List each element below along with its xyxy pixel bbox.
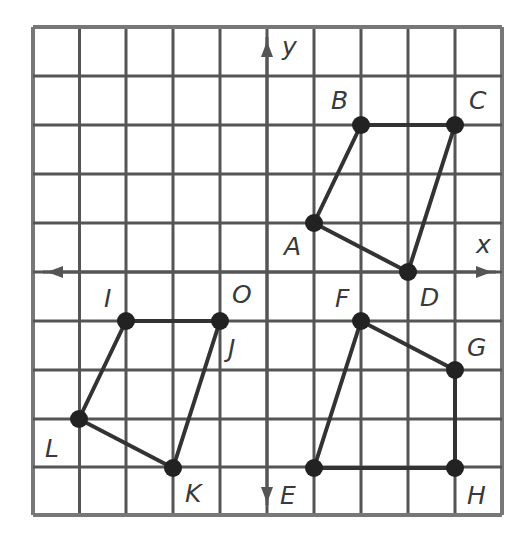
polygon-edges bbox=[314, 125, 455, 272]
vertex-point-k bbox=[164, 459, 182, 477]
vertex-point-g bbox=[446, 361, 464, 379]
x-axis-label: x bbox=[475, 230, 491, 259]
vertex-label-g: G bbox=[467, 333, 486, 362]
vertex-point-e bbox=[305, 459, 323, 477]
vertex-point-f bbox=[352, 312, 370, 330]
polygon-edges bbox=[314, 321, 455, 468]
vertex-label-a: A bbox=[282, 232, 301, 261]
vertex-label-c: C bbox=[469, 86, 487, 115]
origin-label: O bbox=[232, 280, 252, 309]
x-axis-arrow-right-icon bbox=[476, 266, 492, 278]
y-axis-arrow-up-icon bbox=[261, 41, 273, 57]
y-axis-arrow-down-icon bbox=[261, 487, 273, 503]
x-axis-arrow-left-icon bbox=[47, 266, 63, 278]
vertex-point-l bbox=[70, 410, 88, 428]
quadrilateral-ijkl: IJKL bbox=[45, 284, 235, 508]
vertex-point-a bbox=[305, 214, 323, 232]
vertex-point-d bbox=[399, 263, 417, 281]
vertex-point-h bbox=[446, 459, 464, 477]
polygon-edges bbox=[79, 321, 220, 468]
vertex-label-b: B bbox=[331, 86, 348, 115]
vertex-label-l: L bbox=[45, 434, 59, 463]
vertex-point-j bbox=[211, 312, 229, 330]
vertex-label-d: D bbox=[420, 283, 439, 312]
coordinate-grid-diagram: x y O ABCDIJKLEFGH bbox=[0, 0, 530, 540]
vertex-label-h: H bbox=[467, 481, 486, 510]
vertex-label-j: J bbox=[223, 334, 235, 363]
vertex-label-i: I bbox=[104, 284, 111, 313]
vertex-point-i bbox=[117, 312, 135, 330]
vertex-label-k: K bbox=[185, 479, 204, 508]
vertex-label-e: E bbox=[280, 481, 296, 510]
y-axis-label: y bbox=[281, 32, 298, 61]
vertex-point-c bbox=[446, 116, 464, 134]
vertex-point-b bbox=[352, 116, 370, 134]
vertex-label-f: F bbox=[335, 284, 350, 313]
